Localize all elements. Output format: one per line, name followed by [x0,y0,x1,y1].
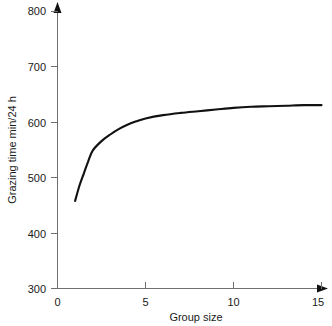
x-axis-arrow-icon [317,285,328,293]
grazing-time-curve [75,105,321,201]
x-tick-label-5: 5 [142,296,148,308]
y-axis-title: Grazing time min/24 h [6,96,18,204]
y-tick-label-400: 400 [28,228,46,240]
y-tick-label-300: 300 [28,283,46,295]
y-tick-label-700: 700 [28,61,46,73]
y-tick-label-500: 500 [28,172,46,184]
x-tick-label-15: 15 [312,296,324,308]
x-tick-label-0: 0 [54,296,60,308]
line-chart-figure: 800 700 600 500 400 300 0 5 10 15 Group … [0,0,332,326]
x-tick-label-10: 10 [227,296,239,308]
y-tick-label-800: 800 [28,5,46,17]
x-axis-title: Group size [169,311,222,323]
chart-container: 800 700 600 500 400 300 0 5 10 15 Group … [0,0,332,326]
y-tick-label-600: 600 [28,117,46,129]
